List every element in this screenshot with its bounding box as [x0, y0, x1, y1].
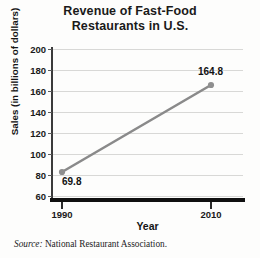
source-label: Source: [14, 239, 43, 249]
y-tick-label-200: 200 [18, 44, 46, 55]
y-tick-mark-120 [48, 133, 52, 134]
source-note: Source: National Restaurant Association. [14, 239, 167, 249]
x-tick-label-2010: 2010 [191, 209, 231, 220]
y-tick-label-120: 120 [18, 128, 46, 139]
y-tick-mark-140 [48, 112, 52, 113]
y-tick-label-100: 100 [18, 149, 46, 160]
chart-title: Revenue of Fast-Food Restaurants in U.S. [0, 4, 260, 34]
y-tick-mark-100 [48, 154, 52, 155]
y-tick-mark-80 [48, 175, 52, 176]
y-tick-mark-160 [48, 91, 52, 92]
y-tick-mark-60 [48, 196, 52, 197]
gridline-200 [52, 49, 243, 50]
gridline-100 [52, 154, 243, 155]
gridline-60 [52, 196, 243, 197]
x-axis-baseline [50, 198, 245, 202]
x-tick-mark-1990 [61, 202, 63, 209]
y-axis-title: Sales (in billions of dollars) [9, 2, 20, 142]
y-tick-mark-180 [48, 70, 52, 71]
chart-title-line-2: Restaurants in U.S. [0, 19, 260, 34]
data-label-1990: 69.8 [62, 176, 81, 187]
data-label-2010: 164.8 [198, 66, 223, 77]
y-tick-label-180: 180 [18, 65, 46, 76]
x-tick-label-1990: 1990 [42, 209, 82, 220]
y-tick-label-60: 60 [18, 191, 46, 202]
gridline-140 [52, 112, 243, 113]
gridline-160 [52, 91, 243, 92]
chart-title-line-1: Revenue of Fast-Food [0, 4, 260, 19]
source-text: National Restaurant Association. [45, 239, 167, 249]
x-tick-mark-2010 [210, 202, 212, 209]
x-axis-title: Year [52, 220, 243, 232]
y-tick-mark-200 [48, 49, 52, 50]
y-tick-label-80: 80 [18, 170, 46, 181]
gridline-120 [52, 133, 243, 134]
chart-figure: Revenue of Fast-Food Restaurants in U.S.… [0, 0, 260, 258]
y-tick-label-140: 140 [18, 107, 46, 118]
y-tick-label-160: 160 [18, 86, 46, 97]
